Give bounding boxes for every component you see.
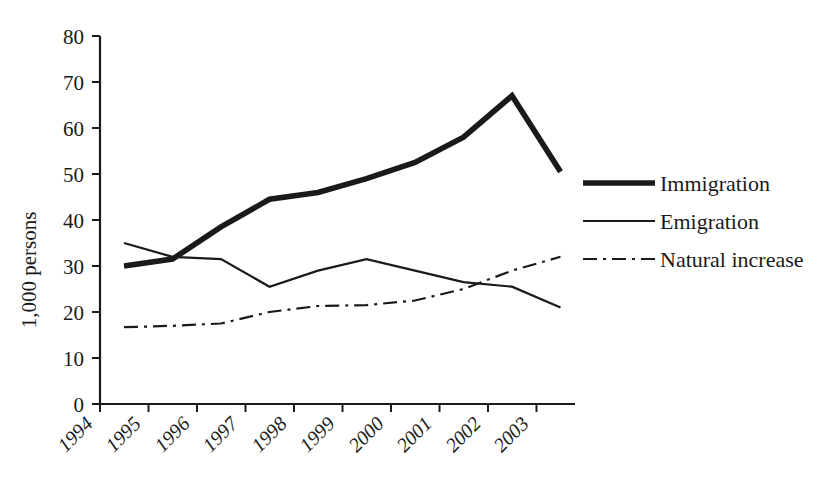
x-tick-label-1994: 1994 [53,412,97,456]
x-tick-label-2001: 2001 [392,412,436,456]
x-tick-label-1996: 1996 [150,412,194,456]
chart-axes [100,36,575,404]
legend-label-emigration: Emigration [660,209,759,234]
y-tick-label-80: 80 [63,25,84,49]
y-tick-label-60: 60 [63,117,84,141]
series-line-emigration [124,243,561,307]
y-tick-label-40: 40 [63,209,84,233]
chart-legend: Immigration Emigration Natural increase [583,171,804,272]
x-tick-labels: 1994 1995 1996 1997 1998 1999 2000 2001 … [53,412,533,457]
y-tick-label-50: 50 [63,163,84,187]
x-tick-label-1995: 1995 [101,412,145,456]
y-tick-label-70: 70 [63,71,84,95]
series-line-natural-increase [124,257,561,327]
y-tick-labels: 80 70 60 50 40 30 20 10 0 [63,25,84,417]
x-tick-label-1999: 1999 [295,412,339,456]
chart-figure: 80 70 60 50 40 30 20 10 0 1,000 persons [0,0,821,496]
legend-label-immigration: Immigration [660,171,770,196]
x-tick-label-2002: 2002 [441,412,485,456]
x-tick-marks [100,404,537,412]
y-tick-label-20: 20 [63,301,84,325]
series-line-immigration [124,96,561,266]
chart-series-group [124,96,561,327]
legend-label-natural-increase: Natural increase [660,247,804,272]
x-tick-label-2000: 2000 [344,412,388,456]
x-tick-label-2003: 2003 [489,412,533,456]
y-tick-label-10: 10 [63,347,84,371]
line-chart: 80 70 60 50 40 30 20 10 0 1,000 persons [0,0,821,496]
y-tick-marks [92,36,100,404]
x-tick-label-1998: 1998 [247,412,291,456]
y-tick-label-30: 30 [63,255,84,279]
y-tick-label-0: 0 [74,393,85,417]
y-axis-title: 1,000 persons [17,212,41,329]
x-tick-label-1997: 1997 [198,412,243,457]
